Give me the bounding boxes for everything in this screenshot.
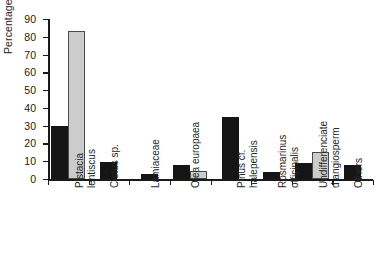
x-axis-tick <box>211 180 212 185</box>
x-axis-tick <box>48 180 49 185</box>
y-axis-tick-label: 50 <box>24 85 36 96</box>
x-axis-category-label: Rosmarinus officinalis <box>277 102 300 188</box>
y-axis-tick: 40 <box>43 108 48 109</box>
y-axis-tick: 50 <box>43 90 48 91</box>
x-axis-category-label: Others <box>353 102 365 188</box>
y-axis-line <box>48 19 50 180</box>
x-axis-tick <box>129 180 130 185</box>
x-axis-category-label: Undifferenciate d angiosperm <box>318 102 341 188</box>
y-axis-tick-label: 80 <box>24 32 36 43</box>
y-axis-tick-label: 90 <box>24 14 36 25</box>
y-axis-tick-label: 60 <box>24 67 36 78</box>
y-axis-tick: 20 <box>43 143 48 144</box>
y-axis-tick: 90 <box>43 19 48 20</box>
x-axis-tick <box>170 180 171 185</box>
y-axis-tick-label: 10 <box>24 156 36 167</box>
y-axis-title: Percentages (%) <box>2 0 18 54</box>
y-axis-tick-label: 70 <box>24 49 36 60</box>
x-axis-category-label: Pinus cf. halepensis <box>236 102 259 188</box>
x-axis-category-label: Cistus sp. <box>109 102 121 188</box>
x-axis-category-label: Pistacia lentiscus <box>74 102 97 188</box>
y-axis-tick: 70 <box>43 55 48 56</box>
y-axis-tick: 80 <box>43 37 48 38</box>
y-axis-tick: 10 <box>43 161 48 162</box>
bar <box>173 165 190 179</box>
y-axis-tick: 60 <box>43 72 48 73</box>
bar-chart-figure: Percentages (%) 9080706050403020100 Pist… <box>0 0 383 276</box>
bar <box>51 126 68 179</box>
y-axis-tick-label: 30 <box>24 120 36 131</box>
y-axis-tick-label: 20 <box>24 138 36 149</box>
x-axis-category-label: Lamiaceae <box>150 102 162 188</box>
clipped-caption <box>0 270 383 276</box>
x-axis-category-label: Olea europaea <box>190 102 202 188</box>
y-axis-tick-label: 0 <box>30 174 36 185</box>
y-axis-tick: 30 <box>43 126 48 127</box>
x-axis-tick <box>373 180 374 185</box>
y-axis-tick-label: 40 <box>24 103 36 114</box>
